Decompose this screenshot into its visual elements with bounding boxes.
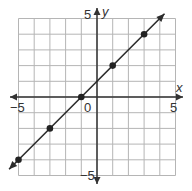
x-min-tick-label: −5 [10,100,25,115]
data-point [15,157,22,164]
y-axis-label: y [101,4,110,19]
y-min-tick-label: −5 [80,168,95,183]
x-axis-label: x [175,80,183,95]
x-max-tick-label: 5 [170,100,177,115]
data-point [109,62,116,69]
data-line [9,14,164,169]
y-max-tick-label: 5 [84,7,91,22]
data-point [47,125,54,132]
origin-label: 0 [84,100,91,115]
data-point [141,31,148,38]
coordinate-plane: x y −5 5 0 5 −5 [0,0,192,191]
